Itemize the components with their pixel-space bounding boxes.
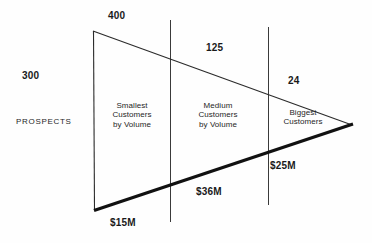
- triangle-left-edge: [94, 31, 95, 210]
- prospects-axis-label: PROSPECTS: [16, 117, 72, 126]
- segment-label-medium: Medium Customers by Volume: [184, 101, 252, 129]
- segment-label-biggest-line1: Biggest: [272, 108, 334, 117]
- count-prospects: 300: [22, 70, 39, 82]
- segment-label-biggest-line2: Customers: [272, 117, 334, 126]
- segment-label-medium-line1: Medium: [184, 101, 252, 110]
- segment-label-smallest-line2: Customers: [98, 110, 166, 119]
- segment-label-medium-line3: by Volume: [184, 120, 252, 129]
- diagram-canvas: 300 400 125 24 $15M $36M $25M PROSPECTS …: [0, 0, 372, 243]
- count-smallest-customers: 400: [108, 10, 125, 22]
- segment-label-smallest: Smallest Customers by Volume: [98, 101, 166, 129]
- segment-label-smallest-line3: by Volume: [98, 120, 166, 129]
- count-biggest-customers: 24: [288, 75, 300, 87]
- revenue-smallest-customers: $15M: [110, 217, 136, 229]
- count-medium-customers: 125: [206, 42, 223, 54]
- segment-label-biggest: Biggest Customers: [272, 108, 334, 127]
- segment-label-medium-line2: Customers: [184, 110, 252, 119]
- segment-label-smallest-line1: Smallest: [98, 101, 166, 110]
- revenue-medium-customers: $36M: [196, 186, 222, 198]
- triangle-bottom-edge: [94, 124, 353, 211]
- revenue-biggest-customers: $25M: [270, 160, 296, 172]
